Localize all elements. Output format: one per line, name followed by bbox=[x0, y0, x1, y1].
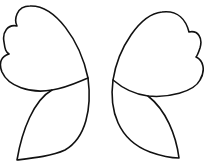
right-upper-wing-outline bbox=[113, 12, 203, 97]
butterfly-wings-drawing bbox=[0, 0, 204, 161]
right-lower-wing-outline bbox=[112, 80, 179, 158]
left-upper-wing-outline bbox=[0, 6, 88, 91]
wings-svg bbox=[0, 0, 204, 161]
